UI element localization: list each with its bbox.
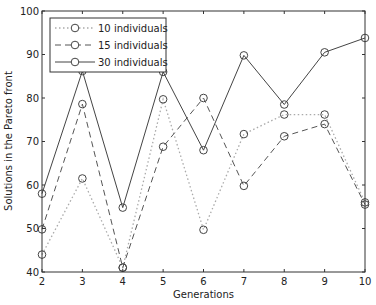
data-point-marker [240,182,248,190]
x-axis-label: Generations [173,289,234,300]
x-tick-label: 6 [200,276,206,287]
y-tick-label: 60 [26,180,39,191]
data-point-marker [240,130,248,138]
y-tick-label: 40 [26,267,39,278]
x-tick-label: 10 [359,276,372,287]
x-tick-label: 2 [39,276,45,287]
x-tick-label: 3 [79,276,85,287]
x-tick-label: 8 [281,276,287,287]
y-tick-label: 50 [26,223,39,234]
data-point-marker [200,226,208,234]
y-axis-label: Solutions in the Pareto front [3,71,14,211]
data-point-marker [79,175,87,183]
x-tick-label: 7 [241,276,247,287]
legend-entry: 15 individuals [98,40,168,51]
x-tick-label: 9 [321,276,327,287]
series-1 [38,96,369,272]
legend-marker-icon [71,58,79,66]
x-tick-label: 4 [120,276,126,287]
legend-marker-icon [71,41,79,49]
series-2 [38,94,369,271]
legend-entry: 30 individuals [98,57,168,68]
line-chart: 2345678910405060708090100 Generations So… [0,0,376,305]
legend-marker-icon [71,24,79,32]
y-tick-label: 90 [26,49,39,60]
y-tick-label: 100 [20,6,39,17]
y-tick-label: 70 [26,136,39,147]
legend-entry: 10 individuals [98,23,168,34]
y-tick-label: 80 [26,93,39,104]
legend: 10 individuals15 individuals30 individua… [50,18,168,72]
data-point-marker [159,143,167,151]
x-tick-label: 5 [160,276,166,287]
